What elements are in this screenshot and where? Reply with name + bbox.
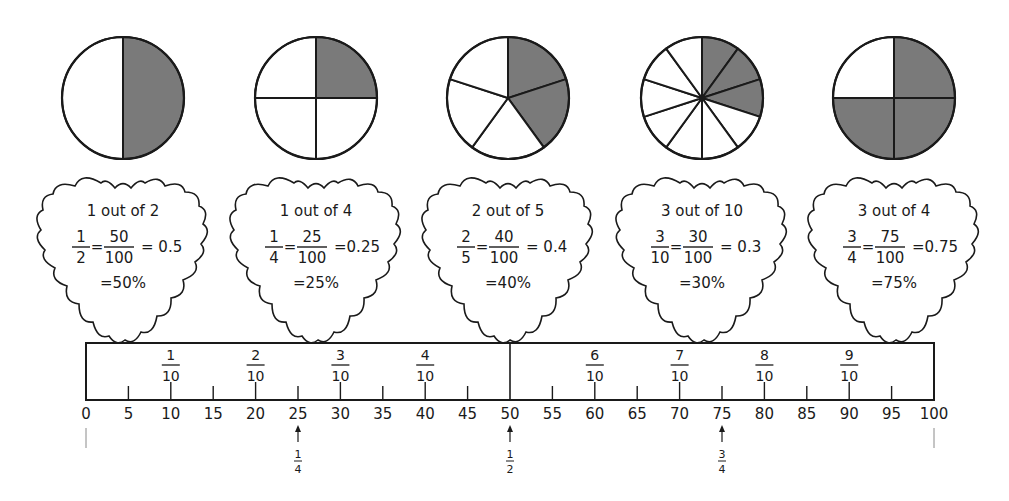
percent-value: =30% <box>679 274 725 292</box>
cloud-title: 1 out of 2 <box>87 202 159 220</box>
percent-value: =75% <box>871 274 917 292</box>
equals-sign: = <box>670 238 683 256</box>
marker-1-2: 12 <box>506 425 514 476</box>
fraction-denominator: 4 <box>269 249 279 267</box>
fraction-denominator: 10 <box>650 249 669 267</box>
tick-label: 60 <box>585 405 604 423</box>
decimal-value: = 0.3 <box>720 238 761 256</box>
tenth-numerator: 7 <box>675 347 684 363</box>
hundredths-numerator: 75 <box>880 228 899 246</box>
marker-numerator: 1 <box>295 448 302 461</box>
fraction-numerator: 2 <box>461 228 471 246</box>
pie-three-quarters <box>833 37 955 159</box>
tenth-numerator: 6 <box>590 347 599 363</box>
hundredths-numerator: 30 <box>688 228 707 246</box>
thought-clouds: 1 out of 212=50100= 0.5=50%1 out of 414=… <box>37 178 978 343</box>
cloud-4: 3 out of 10310=30100= 0.3=30% <box>616 178 786 343</box>
percent-value: =50% <box>100 274 146 292</box>
tick-label: 70 <box>670 405 689 423</box>
tick-label: 30 <box>331 405 350 423</box>
tick-label: 40 <box>416 405 435 423</box>
hundredths-denominator: 100 <box>684 249 713 267</box>
fraction-numerator: 1 <box>269 228 279 246</box>
hundredths-numerator: 25 <box>302 228 321 246</box>
hundredths-numerator: 40 <box>494 228 513 246</box>
decimal-value: = 0.4 <box>526 238 567 256</box>
cloud-3: 2 out of 525=40100= 0.4=40% <box>422 178 592 343</box>
tick-label: 50 <box>500 405 519 423</box>
tenth-denominator: 10 <box>247 368 265 384</box>
hundredths-denominator: 100 <box>105 249 134 267</box>
cloud-title: 1 out of 4 <box>280 202 352 220</box>
tick-label: 25 <box>288 405 307 423</box>
tick-label: 90 <box>840 405 859 423</box>
arrow-head <box>295 425 301 432</box>
tenth-denominator: 10 <box>755 368 773 384</box>
tick-label: 85 <box>797 405 816 423</box>
fraction-numerator: 3 <box>655 228 665 246</box>
equals-sign: = <box>284 238 297 256</box>
fraction-numerator: 3 <box>847 228 857 246</box>
tick-label: 15 <box>204 405 223 423</box>
percent-value: =25% <box>293 274 339 292</box>
cloud-title: 3 out of 10 <box>661 202 743 220</box>
fraction-numerator: 1 <box>76 228 86 246</box>
shaded-slice <box>123 37 184 159</box>
tenth-numerator: 3 <box>336 347 345 363</box>
tick-label: 100 <box>920 405 949 423</box>
cloud-5: 3 out of 434=75100=0.75=75% <box>808 178 978 343</box>
tick-label: 95 <box>882 405 901 423</box>
pie-charts <box>62 37 955 159</box>
decimal-value: = 0.5 <box>141 238 182 256</box>
tick-label: 10 <box>161 405 180 423</box>
tenth-numerator: 4 <box>421 347 430 363</box>
equals-sign: = <box>476 238 489 256</box>
arrow-head <box>719 425 725 432</box>
fraction-denominator: 4 <box>847 249 857 267</box>
marker-denominator: 4 <box>719 463 726 476</box>
marker-1-4: 14 <box>294 425 302 476</box>
cloud-title: 3 out of 4 <box>858 202 930 220</box>
tick-label: 35 <box>373 405 392 423</box>
unshaded-slice <box>62 37 123 159</box>
tenth-numerator: 1 <box>166 347 175 363</box>
tenth-denominator: 10 <box>586 368 604 384</box>
tick-label: 5 <box>124 405 134 423</box>
marker-numerator: 1 <box>507 448 514 461</box>
fraction-denominator: 2 <box>76 249 86 267</box>
tick-label: 80 <box>755 405 774 423</box>
tick-label: 55 <box>543 405 562 423</box>
decimal-value: =0.25 <box>334 238 380 256</box>
tenth-numerator: 9 <box>845 347 854 363</box>
tenth-denominator: 10 <box>416 368 434 384</box>
hundredths-numerator: 50 <box>109 228 128 246</box>
marker-denominator: 2 <box>507 463 514 476</box>
tenth-denominator: 10 <box>162 368 180 384</box>
arrow-head <box>507 425 513 432</box>
marker-3-4: 34 <box>718 425 726 476</box>
equals-sign: = <box>91 238 104 256</box>
tick-label: 0 <box>81 405 91 423</box>
equals-sign: = <box>862 238 875 256</box>
decimal-value: =0.75 <box>912 238 958 256</box>
tick-label: 20 <box>246 405 265 423</box>
marker-numerator: 3 <box>719 448 726 461</box>
cloud-1: 1 out of 212=50100= 0.5=50% <box>37 178 207 343</box>
marker-denominator: 4 <box>295 463 302 476</box>
hundredths-denominator: 100 <box>298 249 327 267</box>
tenth-denominator: 10 <box>671 368 689 384</box>
pie-half <box>62 37 184 159</box>
pie-two-fifths <box>447 37 569 159</box>
hundredths-denominator: 100 <box>490 249 519 267</box>
tick-label: 75 <box>712 405 731 423</box>
pie-three-tenths <box>641 37 763 159</box>
fraction-denominator: 5 <box>461 249 471 267</box>
tenth-numerator: 2 <box>251 347 260 363</box>
pie-center-dot <box>699 95 705 101</box>
tenth-denominator: 10 <box>331 368 349 384</box>
percent-value: =40% <box>485 274 531 292</box>
fractions-diagram: 1 out of 212=50100= 0.5=50%1 out of 414=… <box>0 0 1009 501</box>
cloud-title: 2 out of 5 <box>472 202 544 220</box>
tick-label: 65 <box>628 405 647 423</box>
cloud-2: 1 out of 414=25100=0.25=25% <box>230 178 400 343</box>
